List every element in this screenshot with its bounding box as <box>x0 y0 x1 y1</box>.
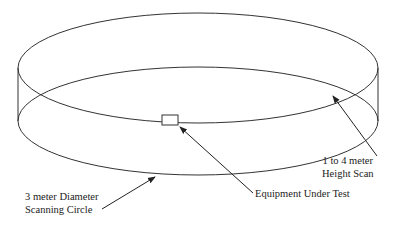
eut-arrow <box>180 127 253 193</box>
height-label: 1 to 4 meter Height Scan <box>322 154 374 180</box>
eut-box <box>162 115 178 125</box>
height-label-line2: Height Scan <box>322 167 374 180</box>
eut-label: Equipment Under Test <box>255 187 350 200</box>
diameter-arrow <box>102 177 155 209</box>
diameter-label: 3 meter Diameter Scanning Circle <box>25 190 98 216</box>
height-label-line1: 1 to 4 meter <box>322 154 374 167</box>
top-circle <box>18 13 378 123</box>
diameter-label-line1: 3 meter Diameter <box>25 190 98 203</box>
diameter-label-line2: Scanning Circle <box>25 203 98 216</box>
